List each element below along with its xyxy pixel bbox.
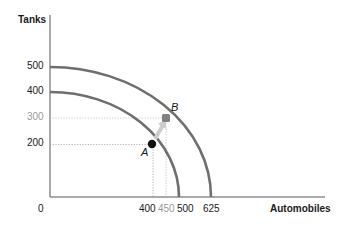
origin-label: 0 [38,203,44,214]
y-axis-title: Tanks [18,14,46,25]
x-axis-title: Automobiles [270,203,331,214]
x-tick-625: 625 [203,203,220,214]
y-tick-300: 300 [27,111,44,122]
ppf-chart: Tanks Automobiles 500 400 300 200 0 400 … [0,0,347,226]
y-tick-400: 400 [27,85,44,96]
point-b-marker [162,114,170,122]
y-tick-200: 200 [27,137,44,148]
chart-plot-area [0,0,347,226]
point-a-marker [148,140,156,148]
point-b-label: B [171,101,178,113]
x-tick-450: 450 [158,203,175,214]
y-tick-500: 500 [27,60,44,71]
x-tick-500: 500 [177,203,194,214]
x-tick-400: 400 [139,203,156,214]
ppf-curve-shifted [50,67,211,197]
point-a-label: A [141,146,148,158]
